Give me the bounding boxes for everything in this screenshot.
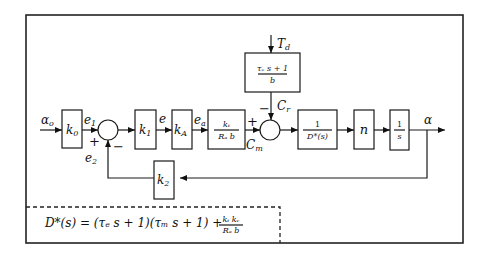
output-label: α	[424, 113, 432, 127]
gear-ratio-label: n	[360, 122, 368, 137]
equation-text: D*(s) = (τₑ s + 1)(τₘ s + 1) +	[44, 216, 222, 230]
integrator-denominator: s	[397, 132, 401, 141]
equation-fraction-denominator: Rₐ b	[222, 226, 240, 235]
disturbance-numerator: τₑ s + 1	[257, 64, 288, 73]
disturbance-denominator: b	[270, 76, 275, 85]
motor-gain-numerator: kₜ	[223, 120, 230, 129]
summing-junction-1	[98, 120, 118, 140]
e2-label: e2	[85, 151, 97, 166]
input-label: αo	[41, 113, 54, 128]
equation-fraction-numerator: kₜ kᵥ	[222, 215, 239, 224]
sum1-minus-sign: −	[113, 139, 124, 154]
cr-label: Cr	[277, 99, 291, 114]
motor-gain-denominator: Rₐ b	[217, 132, 235, 141]
sum1-plus-sign: +	[89, 134, 100, 149]
sum2-plus-sign: +	[247, 114, 258, 129]
ea-label: ea	[194, 113, 206, 128]
e1-label: e1	[84, 113, 96, 128]
td-label: Td	[277, 37, 290, 52]
cm-label: Cm	[246, 138, 263, 153]
plant-numerator: 1	[315, 120, 320, 129]
summing-junction-2	[260, 120, 280, 140]
e-label: e	[159, 112, 166, 126]
sum2-minus-sign: −	[259, 101, 270, 116]
block-diagram: αo k0 e1 + − k1 e kA ea kₜ Rₐ b + Cm − T…	[0, 0, 487, 261]
integrator-numerator: 1	[397, 120, 402, 129]
plant-denominator: D*(s)	[306, 132, 328, 141]
